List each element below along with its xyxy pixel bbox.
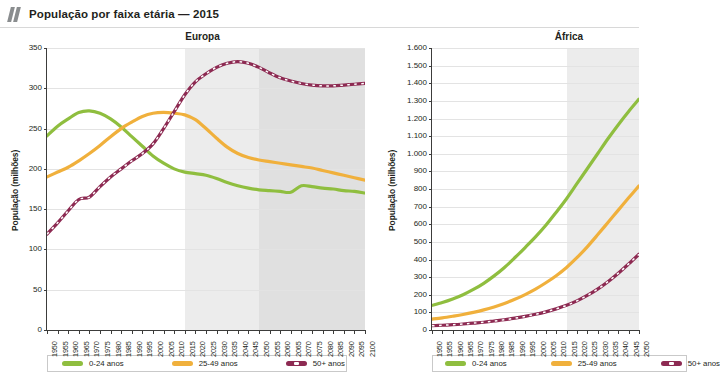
- x-tick-mark: [79, 331, 80, 334]
- x-tick-label: 1965: [82, 341, 91, 357]
- legend-item[interactable]: 25-49 anos: [172, 359, 238, 368]
- x-tick-mark: [58, 331, 59, 334]
- x-tick-label: 2015: [188, 341, 197, 357]
- legend-item[interactable]: 25-49 anos: [551, 359, 617, 368]
- y-tick-label: 800: [399, 184, 427, 193]
- x-tick-label: 2025: [590, 341, 599, 357]
- x-tick-label: 1950: [435, 341, 444, 357]
- x-tick-mark: [463, 331, 464, 334]
- x-tick-mark: [556, 331, 557, 334]
- x-tick-mark: [546, 331, 547, 334]
- y-tick-label: 1.300: [399, 96, 427, 105]
- x-tick-label: 1980: [114, 341, 123, 357]
- y-tick-label: 150: [22, 204, 42, 213]
- x-tick-label: 1955: [445, 341, 454, 357]
- legend-item[interactable]: 50+ anos: [286, 359, 345, 368]
- x-tick-mark: [195, 331, 196, 334]
- y-tick-label: 50: [22, 285, 42, 294]
- x-tick-mark: [536, 331, 537, 334]
- y-tick-label: 1.400: [399, 78, 427, 87]
- x-tick-mark: [639, 331, 640, 334]
- y-tick-label: 300: [22, 83, 42, 92]
- x-tick-mark: [442, 331, 443, 334]
- y-axis-line: [46, 48, 47, 331]
- legend-label: 25-49 anos: [578, 359, 617, 368]
- y-tick-label: 500: [399, 237, 427, 246]
- chart-title-africa: África: [424, 31, 714, 42]
- x-tick-label: 1995: [145, 341, 154, 357]
- legend-europa: 0-24 anos25-49 anos50+ anos: [47, 355, 347, 372]
- y-tick-label: 600: [399, 219, 427, 228]
- x-tick-label: 1990: [135, 341, 144, 357]
- x-tick-label: 1975: [487, 341, 496, 357]
- x-tick-label: 2000: [156, 341, 165, 357]
- legend-swatch-icon: [62, 361, 83, 366]
- series-line-1: [47, 111, 365, 193]
- x-tick-mark: [453, 331, 454, 334]
- header-divider: [0, 27, 639, 28]
- y-tick-label: 700: [399, 202, 427, 211]
- series-line-2: [432, 186, 639, 319]
- x-tick-mark: [206, 331, 207, 334]
- y-tick-label: 350: [22, 43, 42, 52]
- x-tick-mark: [259, 331, 260, 334]
- series-line-2: [47, 112, 365, 180]
- y-tick-label: 250: [22, 124, 42, 133]
- x-tick-mark: [238, 331, 239, 334]
- x-tick-label: 2040: [241, 341, 250, 357]
- x-tick-label: 2005: [549, 341, 558, 357]
- x-tick-mark: [333, 331, 334, 334]
- x-tick-mark: [494, 331, 495, 334]
- x-tick-mark: [432, 331, 433, 334]
- x-tick-mark: [132, 331, 133, 334]
- legend-label: 50+ anos: [313, 359, 345, 368]
- page-title: População por faixa etária — 2015: [29, 8, 219, 20]
- legend-swatch-icon: [172, 361, 193, 366]
- legend-item[interactable]: 0-24 anos: [62, 359, 124, 368]
- x-tick-mark: [354, 331, 355, 334]
- x-tick-mark: [111, 331, 112, 334]
- x-tick-mark: [323, 331, 324, 334]
- legend-swatch-icon: [286, 361, 307, 366]
- x-tick-label: 2020: [580, 341, 589, 357]
- x-tick-mark: [100, 331, 101, 334]
- legend-item[interactable]: 50+ anos: [661, 359, 720, 368]
- x-tick-label: 2050: [262, 341, 271, 357]
- series-line-1: [432, 99, 639, 305]
- x-tick-mark: [365, 331, 366, 334]
- x-tick-label: 2010: [559, 341, 568, 357]
- x-tick-mark: [618, 331, 619, 334]
- plot-area-europa: [47, 48, 365, 330]
- x-tick-mark: [174, 331, 175, 334]
- y-axis-line: [431, 48, 432, 331]
- x-tick-mark: [301, 331, 302, 334]
- y-tick-label: 200: [22, 164, 42, 173]
- x-tick-mark: [484, 331, 485, 334]
- x-tick-mark: [608, 331, 609, 334]
- x-tick-label: 2060: [283, 341, 292, 357]
- x-tick-mark: [312, 331, 313, 334]
- series-canvas: [432, 48, 639, 330]
- legend-swatch-icon: [445, 361, 466, 366]
- y-tick-label: 1.000: [399, 149, 427, 158]
- x-tick-label: 1960: [456, 341, 465, 357]
- x-tick-mark: [280, 331, 281, 334]
- x-tick-mark: [291, 331, 292, 334]
- y-tick-label: 400: [399, 255, 427, 264]
- legend-item[interactable]: 0-24 anos: [445, 359, 507, 368]
- x-tick-label: 1990: [518, 341, 527, 357]
- page-header: População por faixa etária — 2015: [0, 0, 639, 28]
- x-tick-label: 2005: [167, 341, 176, 357]
- x-tick-mark: [270, 331, 271, 334]
- x-tick-label: 2045: [632, 341, 641, 357]
- x-tick-mark: [473, 331, 474, 334]
- x-tick-mark: [567, 331, 568, 334]
- y-tick-label: 1.500: [399, 61, 427, 70]
- legend-swatch-icon: [661, 361, 682, 366]
- x-tick-label: 2020: [198, 341, 207, 357]
- x-tick-label: 2070: [304, 341, 313, 357]
- x-tick-label: 2015: [570, 341, 579, 357]
- x-tick-mark: [185, 331, 186, 334]
- x-tick-label: 2050: [642, 341, 651, 357]
- x-tick-label: 1985: [507, 341, 516, 357]
